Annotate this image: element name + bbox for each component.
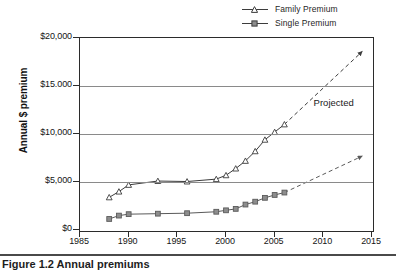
x-tick-2000 <box>225 232 226 237</box>
x-tick-1995 <box>176 232 177 237</box>
data-point-marker <box>243 202 248 207</box>
y-tick-label-5000: $5,000 <box>2 175 72 185</box>
x-tick-label-1995: 1995 <box>153 236 199 246</box>
data-point-marker <box>214 209 219 214</box>
y-tick-label-10000: $10,000 <box>2 127 72 137</box>
figure-root: Family Premium Single Premium Annual $ p… <box>0 0 396 272</box>
series-family-premium <box>106 51 362 199</box>
x-tick-2010 <box>322 232 323 237</box>
series-line <box>109 193 284 219</box>
figure-caption: Figure 1.2 Annual premiums <box>2 258 394 272</box>
chart-legend: Family Premium Single Premium <box>242 3 392 31</box>
data-point-marker <box>224 208 229 213</box>
data-point-marker <box>116 189 122 194</box>
plot-area: Projected <box>79 37 374 232</box>
caption-divider <box>0 254 396 256</box>
data-point-marker <box>272 193 277 198</box>
x-tick-label-1985: 1985 <box>56 236 102 246</box>
x-tick-2005 <box>274 232 275 237</box>
gridline-15000 <box>80 86 373 87</box>
gridline-5000 <box>80 182 373 183</box>
data-point-marker <box>253 199 258 204</box>
x-tick-label-2015: 2015 <box>348 236 394 246</box>
legend-item-single-premium: Single Premium <box>242 17 392 29</box>
data-point-marker <box>223 172 229 177</box>
y-tick-label-20000: $20,000 <box>2 31 72 41</box>
legend-label-single-premium: Single Premium <box>268 18 336 28</box>
legend-item-family-premium: Family Premium <box>242 3 392 15</box>
data-point-marker <box>106 194 112 199</box>
x-tick-label-1990: 1990 <box>105 236 151 246</box>
series-projection-line <box>284 51 362 124</box>
data-point-marker <box>126 212 131 217</box>
series-single-premium <box>107 156 362 221</box>
legend-marker-triangle-icon <box>242 4 268 15</box>
data-point-marker <box>185 211 190 216</box>
gridline-10000 <box>80 134 373 135</box>
data-point-marker <box>117 213 122 218</box>
series-line <box>109 124 284 197</box>
x-tick-label-2000: 2000 <box>202 236 248 246</box>
data-point-marker <box>263 195 268 200</box>
y-tick-label-15000: $15.000 <box>2 79 72 89</box>
data-point-marker <box>107 217 112 222</box>
legend-marker-square-icon <box>242 18 268 29</box>
x-tick-2015 <box>371 232 372 237</box>
legend-label-family-premium: Family Premium <box>268 4 338 14</box>
chart-annotation-projected: Projected <box>314 97 354 108</box>
data-point-marker <box>233 206 238 211</box>
x-tick-1990 <box>128 232 129 237</box>
y-axis-title: Annual $ premium <box>18 41 29 181</box>
x-tick-label-2010: 2010 <box>299 236 345 246</box>
x-tick-1985 <box>79 232 80 237</box>
data-point-marker <box>155 211 160 216</box>
data-point-marker <box>282 190 287 195</box>
y-tick-label-0: $0 <box>2 223 72 233</box>
x-tick-label-2005: 2005 <box>251 236 297 246</box>
series-projection-line <box>284 156 362 192</box>
